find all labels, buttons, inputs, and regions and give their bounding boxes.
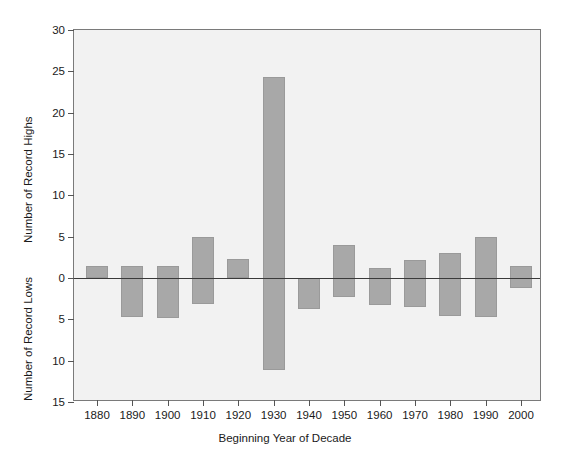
x-tick-mark	[521, 400, 522, 406]
x-tick-label: 1880	[84, 409, 110, 421]
y-tick-mark	[68, 319, 74, 320]
x-tick-mark	[238, 400, 239, 406]
x-tick-label: 1990	[473, 409, 499, 421]
plot-area: 05101520253051015 1880189019001910192019…	[73, 29, 541, 401]
y-tick-mark	[68, 30, 74, 31]
bar-1990	[475, 237, 497, 317]
y-axis-label-lows: Number of Record Lows	[22, 277, 34, 401]
bar-1880	[86, 266, 108, 278]
bar-1930	[263, 77, 285, 370]
x-tick-mark	[309, 400, 310, 406]
y-tick-mark	[68, 195, 74, 196]
x-tick-mark	[132, 400, 133, 406]
y-tick-label: 15	[52, 148, 65, 160]
bar-1890	[121, 266, 143, 317]
y-tick-mark	[68, 113, 74, 114]
bars-layer	[74, 30, 540, 400]
x-tick-mark	[274, 400, 275, 406]
y-tick-label: 15	[52, 396, 65, 408]
x-tick-label: 1940	[296, 409, 322, 421]
x-axis-label: Beginning Year of Decade	[0, 432, 570, 444]
chart-figure: 05101520253051015 1880189019001910192019…	[0, 0, 570, 472]
bar-1980	[439, 253, 461, 316]
zero-baseline	[74, 278, 540, 279]
x-tick-label: 1900	[155, 409, 181, 421]
x-tick-label: 1910	[190, 409, 216, 421]
y-tick-mark	[68, 237, 74, 238]
bar-1940	[298, 278, 320, 309]
bar-1910	[192, 237, 214, 305]
x-tick-label: 2000	[508, 409, 534, 421]
bar-2000	[510, 266, 532, 288]
y-axis-label-highs: Number of Record Highs	[22, 116, 34, 243]
bar-1920	[227, 259, 249, 278]
y-tick-label: 5	[59, 231, 65, 243]
bar-1950	[333, 245, 355, 297]
x-tick-mark	[486, 400, 487, 406]
y-tick-label: 0	[59, 272, 65, 284]
y-tick-mark	[68, 71, 74, 72]
x-tick-mark	[203, 400, 204, 406]
x-tick-mark	[168, 400, 169, 406]
x-tick-label: 1960	[367, 409, 393, 421]
bar-1900	[157, 266, 179, 318]
x-tick-mark	[97, 400, 98, 406]
x-tick-mark	[450, 400, 451, 406]
x-tick-label: 1980	[438, 409, 464, 421]
x-tick-label: 1930	[261, 409, 287, 421]
x-tick-label: 1920	[226, 409, 252, 421]
y-tick-label: 5	[59, 313, 65, 325]
y-tick-label: 25	[52, 65, 65, 77]
bar-1960	[369, 268, 391, 305]
x-tick-label: 1970	[402, 409, 428, 421]
y-tick-label: 20	[52, 107, 65, 119]
x-tick-label: 1950	[332, 409, 358, 421]
x-tick-mark	[380, 400, 381, 406]
x-tick-mark	[415, 400, 416, 406]
y-tick-mark	[68, 278, 74, 279]
y-tick-mark	[68, 361, 74, 362]
y-tick-mark	[68, 402, 74, 403]
x-tick-mark	[344, 400, 345, 406]
y-tick-mark	[68, 154, 74, 155]
y-tick-label: 10	[52, 355, 65, 367]
bar-1970	[404, 260, 426, 307]
y-tick-label: 30	[52, 24, 65, 36]
y-tick-label: 10	[52, 189, 65, 201]
x-tick-label: 1890	[120, 409, 146, 421]
